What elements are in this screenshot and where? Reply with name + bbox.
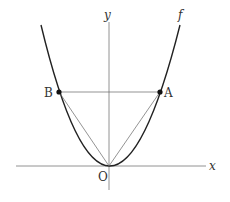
parabola-diagram: y f B A O x (0, 0, 230, 202)
parabola-f (41, 25, 180, 166)
point-A-marker (157, 89, 162, 94)
curve-label-f: f (177, 8, 185, 22)
origin-label: O (98, 170, 108, 184)
segment-OA (109, 92, 160, 166)
x-axis-label: x (209, 159, 216, 173)
y-axis-label: y (103, 8, 111, 22)
point-B-label: B (44, 86, 53, 100)
point-B-marker (56, 89, 61, 94)
point-A-label: A (163, 86, 173, 100)
segment-OB (59, 92, 109, 166)
